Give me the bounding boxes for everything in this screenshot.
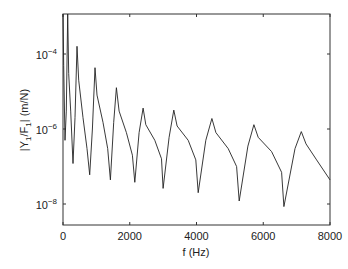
x-tick-label: 4000 [184,230,208,242]
x-tick-label: 2000 [118,230,142,242]
y-axis-ticks: 10−810−610−4 [36,47,330,211]
x-axis-label: f (Hz) [183,246,210,258]
y-tick-label: 10−6 [36,122,58,136]
x-tick-label: 0 [60,230,66,242]
x-axis-ticks: 02000400060008000 [60,14,342,242]
plot-frame [63,14,330,225]
x-tick-label: 6000 [251,230,275,242]
svg-text:|Y1/F1| (m/N): |Y1/F1| (m/N) [18,89,33,151]
y-tick-label: 10−4 [36,47,58,61]
x-tick-label: 8000 [318,230,342,242]
y-tick-label: 10−8 [36,197,58,211]
frequency-response-chart: 02000400060008000 10−810−610−4 f (Hz) |Y… [0,0,348,269]
y-axis-label: |Y1/F1| (m/N) [18,89,33,151]
response-curve [63,14,330,207]
